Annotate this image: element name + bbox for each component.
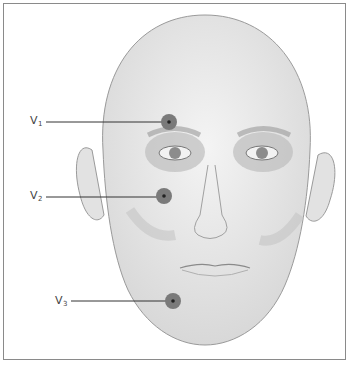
face-illustration [0, 0, 350, 366]
label-v3: V3 [55, 294, 68, 308]
label-v2: V2 [30, 189, 43, 203]
label-v1: V1 [30, 114, 43, 128]
